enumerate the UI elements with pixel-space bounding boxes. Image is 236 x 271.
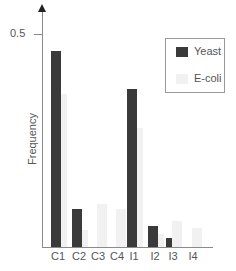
x-tick-label-c1: C1 <box>48 250 68 262</box>
bar-ecoli-c4 <box>116 209 126 247</box>
x-tick-label-i2: I2 <box>145 250 165 262</box>
y-tick-label: 0.5 <box>10 27 25 39</box>
x-tick-label-i1: I1 <box>124 250 144 262</box>
legend-label-yeast: Yeast <box>194 45 221 57</box>
bar-ecoli-i4 <box>192 228 202 247</box>
y-axis-arrow-icon <box>38 4 46 12</box>
x-tick-label-i3: I3 <box>163 250 183 262</box>
x-tick-label-c2: C2 <box>69 250 89 262</box>
x-tick-label-c3: C3 <box>88 250 108 262</box>
legend-label-ecoli: E-coli <box>194 72 222 84</box>
bar-ecoli-c3 <box>97 204 107 247</box>
bar-yeast-c2 <box>72 209 82 247</box>
bar-yeast-i3 <box>166 238 172 247</box>
bar-yeast-c1 <box>51 51 61 247</box>
legend: Yeast E-coli <box>165 38 225 93</box>
bar-yeast-i2 <box>148 226 158 247</box>
x-axis <box>42 247 213 248</box>
y-tick <box>34 34 42 35</box>
bar-yeast-i1 <box>127 89 137 247</box>
x-tick-label-i4: I4 <box>183 250 203 262</box>
legend-swatch-ecoli <box>176 74 188 84</box>
y-axis <box>42 8 43 247</box>
bar-ecoli-i3 <box>172 221 182 247</box>
legend-swatch-yeast <box>176 47 188 57</box>
y-axis-label: Frequency <box>26 104 38 174</box>
